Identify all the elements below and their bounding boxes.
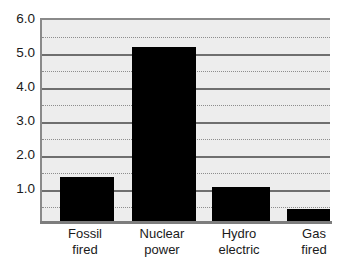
- x-axis-line: [40, 221, 332, 224]
- category-label-line-1: Fossil: [48, 226, 122, 242]
- category-label-gas-fired: Gas fired: [280, 226, 348, 258]
- category-label-nuclear-power: Nuclear power: [124, 226, 200, 258]
- category-label-line-1: Hydro: [203, 226, 275, 242]
- bar-chart-figure: 6.0 5.0 4.0 3.0 2.0 1.0 Fossil: [0, 0, 354, 267]
- y-tick-label-2: 2.0: [16, 148, 35, 162]
- plot-area: [40, 18, 330, 222]
- y-axis: 6.0 5.0 4.0 3.0 2.0 1.0: [0, 0, 38, 267]
- category-label-line-1: Nuclear: [124, 226, 200, 242]
- category-label-line-2: fired: [48, 242, 122, 258]
- category-label-fossil-fired: Fossil fired: [48, 226, 122, 258]
- y-tick-label-3: 3.0: [16, 114, 35, 128]
- y-tick-label-6: 6.0: [16, 12, 35, 26]
- y-tick-label-5: 5.0: [16, 46, 35, 60]
- bar-nuclear-power[interactable]: [132, 47, 196, 222]
- category-label-line-2: power: [124, 242, 200, 258]
- bar-hydro-electric[interactable]: [212, 187, 270, 222]
- category-label-line-2: fired: [280, 242, 348, 258]
- category-label-line-1: Gas: [280, 226, 348, 242]
- bars-layer: [42, 20, 330, 222]
- bar-fossil-fired[interactable]: [60, 177, 114, 222]
- bar-gas-fired[interactable]: [287, 209, 330, 222]
- category-label-hydro-electric: Hydro electric: [203, 226, 275, 258]
- y-tick-label-4: 4.0: [16, 80, 35, 94]
- x-axis-category-labels: Fossil fired Nuclear power Hydro electri…: [40, 226, 330, 266]
- y-tick-label-1: 1.0: [16, 182, 35, 196]
- category-label-line-2: electric: [203, 242, 275, 258]
